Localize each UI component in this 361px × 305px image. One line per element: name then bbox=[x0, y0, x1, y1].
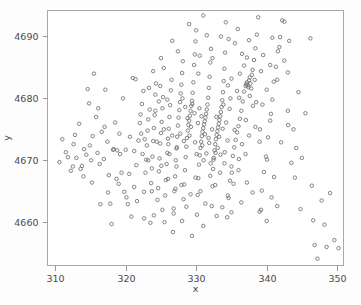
y-tick-label: 4670 bbox=[14, 155, 38, 166]
x-tick-label: 350 bbox=[328, 273, 346, 284]
x-tick-label: 310 bbox=[46, 273, 64, 284]
y-axis-tickmarks bbox=[43, 37, 48, 223]
x-axis-tickmarks bbox=[56, 266, 338, 271]
y-axis-tick-labels: 4660467046804690 bbox=[14, 31, 38, 228]
plot-canvas: 310320330340350 4660467046804690 x y bbox=[0, 0, 361, 305]
y-tick-label: 4660 bbox=[14, 217, 38, 228]
y-tick-label: 4690 bbox=[14, 31, 38, 42]
x-tick-label: 330 bbox=[187, 273, 205, 284]
y-tick-label: 4680 bbox=[14, 93, 38, 104]
scatter-plot-figure: 310320330340350 4660467046804690 x y bbox=[0, 0, 361, 305]
x-axis-title: x bbox=[193, 283, 199, 294]
x-axis-tick-labels: 310320330340350 bbox=[46, 273, 346, 284]
x-tick-label: 320 bbox=[117, 273, 135, 284]
y-axis-title: y bbox=[1, 135, 12, 141]
x-tick-label: 340 bbox=[258, 273, 276, 284]
